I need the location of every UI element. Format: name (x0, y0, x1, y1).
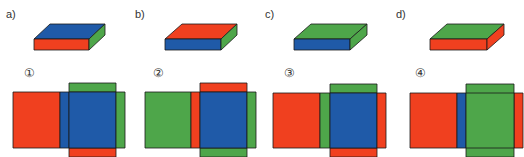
net-3-right-strip (377, 93, 386, 148)
box-d-front-face (430, 39, 487, 50)
net-3 (273, 84, 386, 157)
net-2-right-strip (247, 92, 256, 148)
box-b-front-face (165, 39, 221, 50)
box-c-front-face (294, 39, 350, 50)
net-1-bottom-flap (69, 148, 116, 157)
box-b (165, 24, 237, 50)
figure-svg (0, 0, 524, 157)
box-a-front-face (34, 39, 89, 50)
net-1-main-face (69, 92, 116, 148)
diagram: a) b) c) d) ① ② ③ ④ (0, 0, 524, 157)
net-1-right-strip (116, 92, 125, 148)
net-1-left-face (13, 92, 60, 148)
net-2-bottom-flap (200, 148, 247, 157)
net-2-top-flap (200, 83, 247, 92)
net-1-strip (60, 92, 69, 148)
net-2-left-face (145, 92, 191, 148)
net-4-main-column (466, 84, 514, 157)
net-2-main-face (200, 92, 247, 148)
net-3-left-face (273, 93, 320, 148)
net-1 (13, 83, 125, 157)
net-2-strip (191, 92, 200, 148)
box-c (294, 24, 367, 50)
net-4-strip (457, 93, 466, 148)
box-d (430, 24, 504, 50)
net-3-bottom-flap (330, 148, 377, 157)
net-1-top-flap (69, 83, 116, 92)
net-4-right-strip (514, 93, 523, 148)
net-3-main-face (330, 93, 377, 148)
net-2 (145, 83, 256, 157)
box-a (34, 24, 105, 50)
net-3-strip (320, 93, 330, 148)
net-4-left-face (410, 93, 457, 148)
net-3-top-flap (330, 84, 377, 93)
net-4 (410, 84, 523, 157)
